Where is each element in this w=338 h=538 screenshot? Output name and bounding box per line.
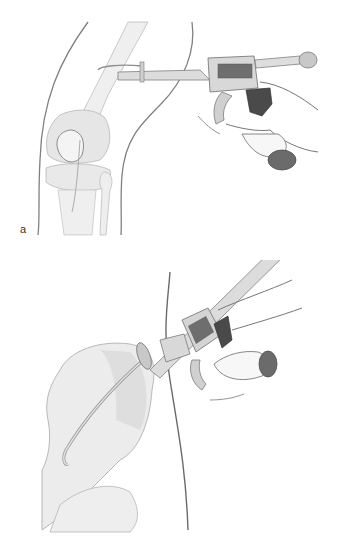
- medical-illustration: a: [0, 0, 338, 538]
- panel-a-knee: a: [0, 0, 338, 260]
- knee-illustration: [0, 0, 338, 260]
- pelvis-illustration: [0, 260, 338, 538]
- panel-label-a: a: [20, 223, 26, 235]
- panel-c-pelvis: c: [0, 260, 338, 538]
